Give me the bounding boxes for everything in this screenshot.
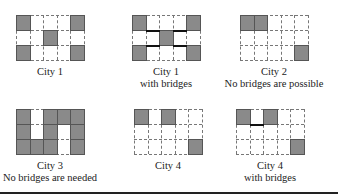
city-grid xyxy=(134,109,202,154)
caption-subtitle: No bridges are needed xyxy=(0,172,106,184)
filled-block xyxy=(16,124,31,140)
caption-subtitle: with bridges xyxy=(214,172,326,184)
caption: City 1 with bridges xyxy=(110,66,222,90)
filled-block xyxy=(132,45,147,61)
filled-block xyxy=(16,139,31,155)
bridge-line xyxy=(146,30,161,32)
caption-title: City 4 xyxy=(214,160,326,172)
filled-block xyxy=(161,109,176,125)
bottom-rule xyxy=(0,192,338,194)
filled-block xyxy=(186,45,201,61)
filled-block xyxy=(132,15,147,31)
filled-block xyxy=(43,124,58,140)
caption-title: City 3 xyxy=(0,160,106,172)
caption-subtitle: with bridges xyxy=(110,78,222,90)
caption-title: City 1 xyxy=(110,66,222,78)
bridge-line xyxy=(173,45,188,47)
filled-block xyxy=(43,109,58,125)
city-grid xyxy=(236,109,304,154)
caption: City 1 xyxy=(0,66,106,78)
filled-block xyxy=(240,15,255,31)
caption-title: City 1 xyxy=(0,66,106,78)
filled-block xyxy=(70,139,85,155)
filled-block xyxy=(263,109,278,125)
filled-block xyxy=(16,45,31,61)
grid-line xyxy=(281,15,282,60)
filled-block xyxy=(30,139,45,155)
filled-block xyxy=(16,109,31,125)
city-grid xyxy=(16,109,84,154)
caption-title: City 4 xyxy=(112,160,224,172)
caption-subtitle: No bridges are possible xyxy=(218,78,330,90)
panel-city1-bridges: City 1 with bridges xyxy=(110,15,222,90)
filled-block xyxy=(159,30,174,46)
panel-city4-bridges: City 4 with bridges xyxy=(214,109,326,184)
caption: City 3 No bridges are needed xyxy=(0,160,106,184)
filled-block xyxy=(43,139,58,155)
filled-block xyxy=(57,109,72,125)
city-grid xyxy=(16,15,84,60)
caption: City 4 xyxy=(112,160,224,172)
filled-block xyxy=(294,45,309,61)
filled-block xyxy=(188,139,203,155)
panel-city3: City 3 No bridges are needed xyxy=(0,109,106,184)
bridge-line xyxy=(250,124,265,126)
filled-block xyxy=(186,15,201,31)
caption-title: City 2 xyxy=(218,66,330,78)
filled-block xyxy=(70,45,85,61)
filled-block xyxy=(16,15,31,31)
filled-block xyxy=(70,15,85,31)
filled-block xyxy=(254,15,269,31)
panel-city4: City 4 xyxy=(112,109,224,172)
bridge-line xyxy=(146,45,161,47)
filled-block xyxy=(70,109,85,125)
filled-block xyxy=(236,109,251,125)
filled-block xyxy=(134,109,149,125)
city-grid xyxy=(132,15,200,60)
panel-city2: City 2 No bridges are possible xyxy=(218,15,330,90)
panel-city1: City 1 xyxy=(0,15,106,78)
filled-block xyxy=(70,124,85,140)
filled-block xyxy=(290,139,305,155)
bridge-line xyxy=(173,30,188,32)
city-grid xyxy=(240,15,308,60)
caption: City 4 with bridges xyxy=(214,160,326,184)
filled-block xyxy=(43,30,58,46)
caption: City 2 No bridges are possible xyxy=(218,66,330,90)
